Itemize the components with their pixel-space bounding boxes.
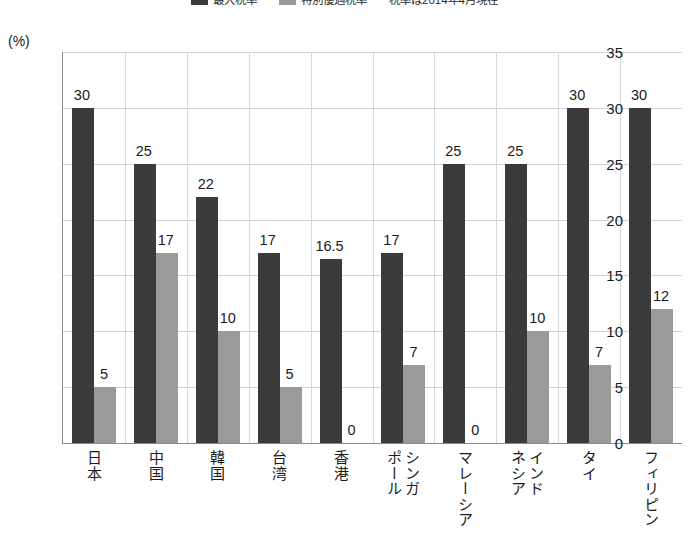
category-label-column: 香港 <box>332 450 349 481</box>
category-label-column: 日本 <box>85 450 102 481</box>
y-axis-tick-label: 10 <box>583 323 623 340</box>
bar-value-label: 30 <box>62 87 102 103</box>
x-axis-category-label: 日本 <box>62 450 124 481</box>
bar-max-rate <box>505 164 527 443</box>
x-axis-category-label: フィリピン <box>619 450 681 528</box>
category-label-column: ネシア <box>509 450 526 497</box>
category-label-column: フィリピン <box>642 450 659 528</box>
category-label-column: 中国 <box>147 450 164 481</box>
legend-label-preferential-rate: 特別優遇税率 <box>301 0 367 6</box>
gridline-vertical <box>558 52 559 443</box>
y-axis-tick-label: 0 <box>583 435 623 452</box>
x-axis-category-label: マレーシア <box>433 450 495 528</box>
category-label-column: マレーシア <box>456 450 473 528</box>
legend-item-max-rate: 最大税率 <box>191 0 257 6</box>
y-axis-tick-label: 5 <box>583 379 623 396</box>
y-axis-tick-label: 25 <box>583 155 623 172</box>
gridline-vertical <box>496 52 497 443</box>
bar-preferential-rate <box>527 331 549 443</box>
bar-value-label: 17 <box>248 232 288 248</box>
bar-preferential-rate <box>280 387 302 443</box>
x-axis-category-label: 香港 <box>310 450 372 481</box>
bar-group <box>443 52 487 443</box>
bar-value-label: 22 <box>186 176 226 192</box>
legend-label-max-rate: 最大税率 <box>213 0 257 6</box>
bar-value-label: 25 <box>124 143 164 159</box>
bar-value-label: 0 <box>332 422 372 438</box>
bar-chart: 最大税率 特別優遇税率 税率は2014年4月現在 (%) 日本中国韓国台湾香港シ… <box>0 0 689 537</box>
gridline-vertical <box>125 52 126 443</box>
category-label-column: ポール <box>385 450 402 497</box>
bar-value-label: 30 <box>557 87 597 103</box>
bar-value-label: 30 <box>619 87 659 103</box>
bar-group <box>196 52 240 443</box>
bar-group <box>629 52 673 443</box>
bar-preferential-rate <box>589 365 611 443</box>
bar-value-label: 0 <box>455 422 495 438</box>
bar-value-label: 5 <box>84 366 124 382</box>
category-label-column: 台湾 <box>270 450 287 481</box>
y-axis-tick-label: 35 <box>583 44 623 61</box>
chart-legend: 最大税率 特別優遇税率 税率は2014年4月現在 <box>0 0 689 9</box>
bar-preferential-rate <box>651 309 673 443</box>
legend-note: 税率は2014年4月現在 <box>389 0 498 6</box>
category-label-column: 韓国 <box>208 450 225 481</box>
y-axis-tick-label: 15 <box>583 267 623 284</box>
bar-value-label: 25 <box>433 143 473 159</box>
y-axis-unit-label: (%) <box>8 33 30 49</box>
gridline-vertical <box>187 52 188 443</box>
bar-value-label: 12 <box>641 288 681 304</box>
category-label-column: シンガ <box>403 450 420 497</box>
y-axis-tick-label: 20 <box>583 211 623 228</box>
legend-swatch-dark <box>191 0 208 5</box>
bar-value-label: 7 <box>579 344 619 360</box>
x-axis-category-label: シンガポール <box>372 450 434 497</box>
legend-item-preferential-rate: 特別優遇税率 <box>279 0 367 6</box>
x-axis-category-label: タイ <box>557 450 619 481</box>
bar-value-label: 17 <box>146 232 186 248</box>
gridline-vertical <box>434 52 435 443</box>
bar-group <box>72 52 116 443</box>
bar-max-rate <box>258 253 280 443</box>
bar-value-label: 16.5 <box>310 238 350 254</box>
bar-preferential-rate <box>156 253 178 443</box>
bar-value-label: 5 <box>270 366 310 382</box>
bar-preferential-rate <box>94 387 116 443</box>
bar-value-label: 10 <box>208 310 248 326</box>
bar-max-rate <box>320 259 342 443</box>
category-label-column: インド <box>527 450 544 497</box>
legend-swatch-light <box>279 0 296 5</box>
bar-max-rate <box>443 164 465 443</box>
bar-preferential-rate <box>218 331 240 443</box>
bar-group <box>505 52 549 443</box>
bar-value-label: 7 <box>393 344 433 360</box>
x-axis-category-label: 台湾 <box>248 450 310 481</box>
bar-preferential-rate <box>403 365 425 443</box>
bar-max-rate <box>629 108 651 443</box>
x-axis-category-label: インドネシア <box>495 450 557 497</box>
bar-max-rate <box>72 108 94 443</box>
bar-value-label: 10 <box>517 310 557 326</box>
x-axis-category-label: 中国 <box>124 450 186 481</box>
bar-value-label: 25 <box>495 143 535 159</box>
category-label-column: タイ <box>580 450 597 481</box>
bar-value-label: 17 <box>371 232 411 248</box>
x-axis-category-label: 韓国 <box>186 450 248 481</box>
bar-max-rate <box>134 164 156 443</box>
